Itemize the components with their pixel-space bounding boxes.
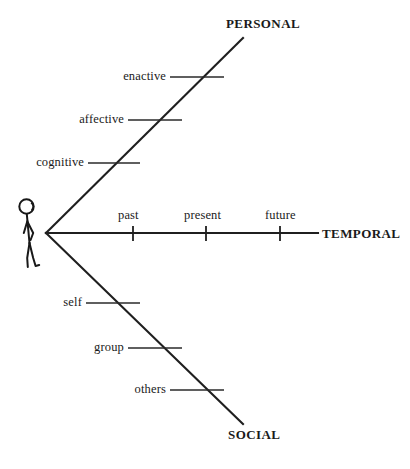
tick-label-past: past: [118, 209, 139, 222]
tick-label-affective: affective: [40, 113, 124, 126]
tick-label-group: group: [42, 341, 124, 354]
tick-label-enactive: enactive: [82, 70, 166, 83]
tick-label-present: present: [184, 209, 221, 222]
experience-diagram: PERSONAL TEMPORAL SOCIAL cognitive affec…: [0, 0, 410, 469]
tick-label-others: others: [84, 383, 166, 396]
axis-label-social: SOCIAL: [228, 428, 280, 441]
tick-label-future: future: [265, 209, 296, 222]
axis-label-personal: PERSONAL: [226, 17, 300, 30]
axis-label-temporal: TEMPORAL: [322, 227, 400, 240]
tick-label-cognitive: cognitive: [0, 156, 84, 169]
personal-axis-line: [46, 38, 243, 233]
tick-label-self: self: [0, 296, 82, 309]
stick-figure-icon: [19, 199, 39, 267]
